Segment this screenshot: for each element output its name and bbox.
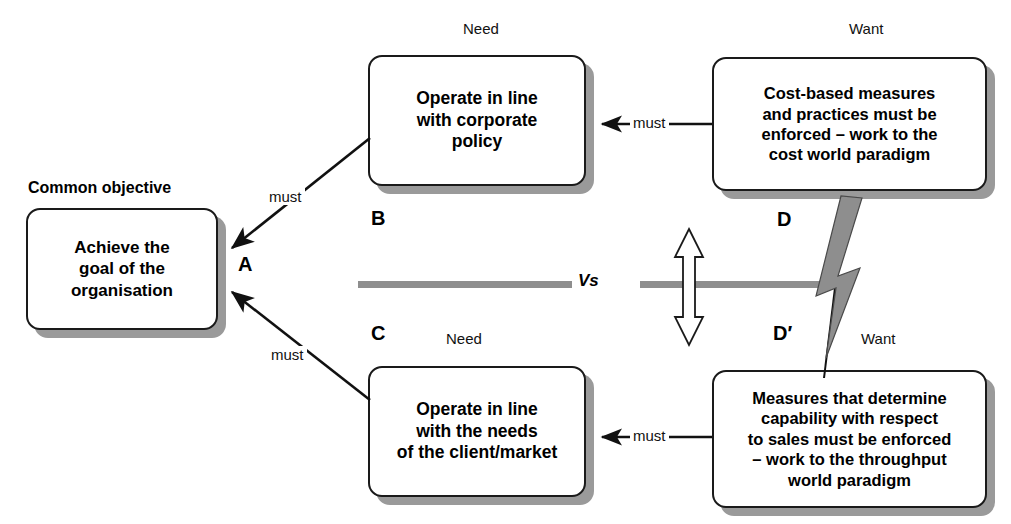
node-need-c[interactable]: Operate in line with the needs of the cl… bbox=[368, 366, 586, 497]
edge-label-c-to-a: must bbox=[268, 346, 307, 363]
node-want-d-text: Cost-based measures and practices must b… bbox=[753, 83, 945, 165]
letter-a: A bbox=[238, 253, 252, 276]
letter-d: D bbox=[777, 208, 791, 231]
node-need-c-text: Operate in line with the needs of the cl… bbox=[389, 399, 565, 464]
caption-want-bottom: Want bbox=[861, 330, 895, 347]
letter-d-prime: D′ bbox=[773, 322, 792, 345]
node-objective-a-text: Achieve the goal of the organisation bbox=[63, 237, 181, 300]
node-need-b-text: Operate in line with corporate policy bbox=[408, 88, 546, 153]
conflict-connector-line bbox=[824, 198, 846, 378]
divider-right bbox=[640, 281, 846, 288]
lightning-bolt-icon bbox=[816, 196, 862, 358]
vs-label: Vs bbox=[578, 271, 599, 291]
letter-c: C bbox=[371, 322, 385, 345]
letter-b: B bbox=[371, 207, 385, 230]
node-want-d-prime-text: Measures that determine capability with … bbox=[740, 388, 960, 490]
edge-label-b-to-a: must bbox=[266, 188, 305, 205]
caption-want-top: Want bbox=[849, 20, 883, 37]
page-title: Common objective bbox=[28, 179, 171, 197]
divider-left bbox=[358, 281, 572, 288]
caption-need-bottom: Need bbox=[446, 330, 482, 347]
edge-label-d-to-b: must bbox=[630, 114, 669, 131]
diagram-canvas: Vs Common objective Need Want Need Want … bbox=[0, 0, 1011, 524]
node-objective-a[interactable]: Achieve the goal of the organisation bbox=[26, 208, 218, 330]
caption-need-top: Need bbox=[463, 20, 499, 37]
node-need-b[interactable]: Operate in line with corporate policy bbox=[368, 55, 586, 186]
node-want-d-prime[interactable]: Measures that determine capability with … bbox=[712, 370, 987, 508]
node-want-d[interactable]: Cost-based measures and practices must b… bbox=[712, 57, 987, 191]
edge-label-dprime-to-c: must bbox=[630, 427, 669, 444]
